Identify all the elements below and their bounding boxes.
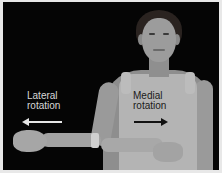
right-strap (185, 72, 195, 94)
right-eye (163, 33, 169, 35)
left-strap (121, 72, 131, 94)
right-side-arm (195, 80, 213, 170)
medial-rotation-label: Medialrotation (133, 91, 166, 111)
left-eye (149, 33, 155, 35)
hand-on-abdomen (153, 142, 183, 162)
lateral-line2: rotation (27, 100, 60, 111)
arrow-left-icon (28, 121, 62, 123)
figure-frame: Lateralrotation Medialrotation (0, 0, 222, 173)
face (142, 18, 176, 62)
wristband (91, 133, 99, 148)
photo (3, 2, 219, 170)
mouth (153, 49, 165, 51)
lateral-rotation-label: Lateralrotation (27, 91, 60, 111)
medial-line2: rotation (133, 100, 166, 111)
arrow-right-icon (134, 121, 162, 123)
hand-extended (13, 130, 47, 152)
